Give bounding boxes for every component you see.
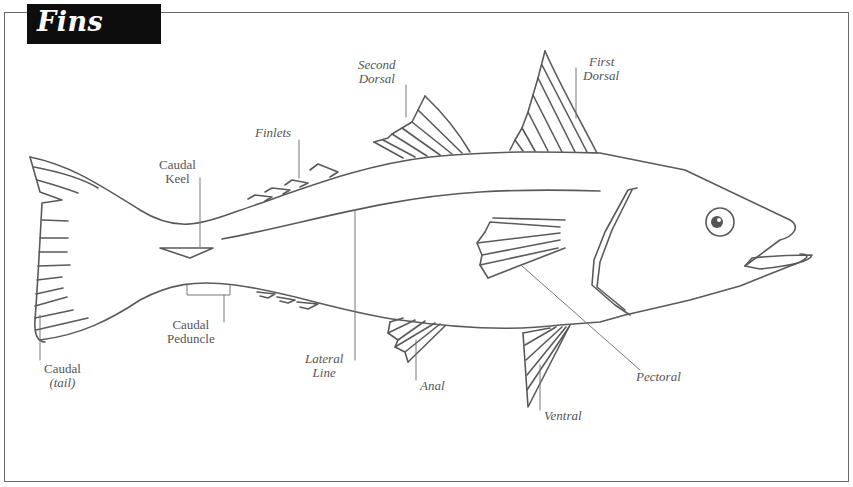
label-caudal-peduncle: Caudal Peduncle: [167, 318, 215, 346]
label-line: Caudal: [44, 362, 81, 376]
label-line: Second: [358, 58, 396, 72]
label-finlets: Finlets: [255, 126, 291, 140]
label-second-dorsal: Second Dorsal: [358, 58, 396, 86]
label-line: Caudal: [159, 158, 196, 172]
lower-jaw: [745, 255, 812, 269]
gill-cover: [592, 188, 637, 315]
caudal-fin-rays: [34, 167, 98, 330]
label-line: First: [583, 55, 619, 69]
fish-illustration: [0, 0, 853, 487]
label-line: Peduncle: [167, 332, 215, 346]
label-first-dorsal: First Dorsal: [583, 55, 619, 83]
eye-pupil: [711, 216, 723, 228]
caudal-keel: [160, 248, 213, 258]
label-lateral-line: Lateral Line: [305, 352, 343, 380]
label-caudal-tail: Caudal (tail): [44, 362, 81, 390]
gill-cover-inner: [597, 190, 632, 310]
second-dorsal-fin: [374, 96, 470, 158]
fins-diagram: Fins: [0, 0, 853, 487]
caudal-fin-outline: [30, 157, 62, 342]
label-anal: Anal: [420, 379, 445, 393]
label-line: Dorsal: [358, 72, 396, 86]
ventral-fin: [523, 325, 570, 407]
label-caudal-keel: Caudal Keel: [159, 158, 196, 186]
pectoral-fin: [477, 218, 565, 278]
body-outline-bottom: [40, 254, 807, 340]
label-ventral: Ventral: [544, 409, 582, 423]
label-pectoral: Pectoral: [636, 370, 681, 384]
label-line: Lateral: [305, 352, 343, 366]
label-line: Dorsal: [583, 69, 619, 83]
label-line: Line: [305, 366, 343, 380]
label-line: (tail): [44, 376, 81, 390]
label-line: Caudal: [167, 318, 215, 332]
label-line: Keel: [159, 172, 196, 186]
body-outline-top: [30, 152, 795, 266]
upper-finlets: [248, 164, 338, 201]
